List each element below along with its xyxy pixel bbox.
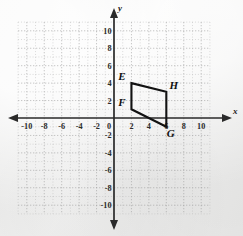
- x-tick-label: 4: [147, 122, 151, 131]
- x-tick-label: -8: [41, 122, 48, 131]
- y-axis-label: y: [117, 3, 123, 13]
- y-tick-label: -2: [105, 131, 112, 140]
- x-tick-label: -6: [58, 122, 65, 131]
- y-tick-label: 10: [103, 27, 111, 36]
- vertex-label-e: E: [117, 70, 125, 82]
- y-axis-arrow-up: [110, 8, 118, 18]
- x-axis-label: x: [232, 106, 238, 116]
- y-tick-label: -8: [105, 184, 112, 193]
- x-tick-label: -10: [21, 122, 32, 131]
- y-tick-label: 4: [107, 79, 111, 88]
- x-tick-label: -2: [93, 122, 100, 131]
- parallelogram-efgh: [131, 83, 166, 127]
- y-tick-label: 8: [107, 44, 111, 53]
- y-axis-arrow-down: [110, 220, 118, 230]
- x-axis-arrow-right: [222, 114, 232, 122]
- y-tick-label: -10: [101, 201, 112, 210]
- y-tick-label: -6: [105, 166, 112, 175]
- x-axis-arrow-left: [8, 114, 18, 122]
- coordinate-plane-svg: x y -10-8-6-4-20246810 108642-2-4-6-8-10…: [0, 0, 243, 236]
- x-tick-label: 2: [129, 122, 133, 131]
- vertex-label-h: H: [169, 79, 179, 91]
- x-tick-label: -4: [76, 122, 83, 131]
- y-tick-label: 2: [107, 97, 111, 106]
- y-tick-label: 6: [107, 62, 111, 71]
- y-tick-label: -4: [105, 149, 112, 158]
- x-tick-label: 8: [182, 122, 186, 131]
- x-tick-label: 10: [197, 122, 205, 131]
- shape-group: [131, 83, 166, 127]
- coordinate-plane-figure: x y -10-8-6-4-20246810 108642-2-4-6-8-10…: [0, 0, 243, 236]
- vertex-label-g: G: [167, 127, 175, 139]
- vertex-label-f: F: [117, 96, 126, 108]
- x-tick-label: 0: [107, 122, 111, 131]
